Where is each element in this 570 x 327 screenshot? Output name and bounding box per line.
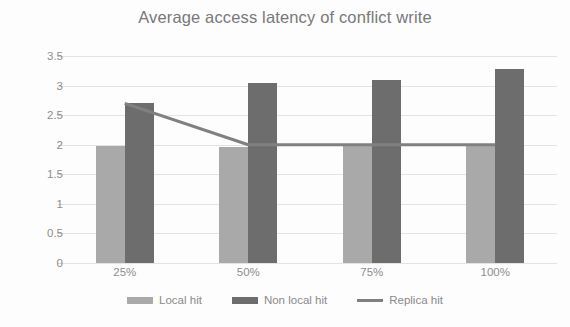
chart-title: Average access latency of conflict write <box>0 8 570 27</box>
y-axis-label: 1.5 <box>3 168 63 180</box>
line-replica-hit <box>125 103 496 144</box>
y-axis-label: 3 <box>3 80 63 92</box>
y-axis-label: 2.5 <box>3 109 63 121</box>
y-axis-label: 1 <box>3 198 63 210</box>
gridline <box>63 56 557 57</box>
legend-label: Replica hit <box>389 294 443 306</box>
gridline <box>63 86 557 87</box>
bar-non-local-hit-75pct <box>372 80 401 263</box>
y-axis-label: 2 <box>3 139 63 151</box>
chart-container: Average access latency of conflict write… <box>0 0 570 327</box>
x-axis-label: 25% <box>113 266 136 278</box>
legend-label: Non local hit <box>264 294 327 306</box>
y-axis-label: 0.5 <box>3 227 63 239</box>
bar-non-local-hit-100pct <box>495 69 524 263</box>
bar-local-hit-75pct <box>343 146 372 263</box>
legend-bar-swatch-icon <box>232 297 258 304</box>
legend-item-replica-hit[interactable]: Replica hit <box>357 294 443 306</box>
legend-line-swatch-icon <box>357 299 383 302</box>
legend-bar-swatch-icon <box>127 297 153 304</box>
bar-local-hit-100pct <box>466 146 495 263</box>
x-axis-label: 50% <box>237 266 260 278</box>
bar-local-hit-25pct <box>96 146 125 263</box>
bar-local-hit-50pct <box>219 147 248 264</box>
bar-non-local-hit-25pct <box>125 103 154 263</box>
bar-non-local-hit-50pct <box>248 83 277 263</box>
y-axis-label: 0 <box>3 257 63 269</box>
legend-label: Local hit <box>159 294 202 306</box>
x-axis-label: 100% <box>481 266 510 278</box>
gridline <box>63 263 557 264</box>
legend-item-local-hit[interactable]: Local hit <box>127 294 202 306</box>
chart-legend: Local hitNon local hitReplica hit <box>0 294 570 306</box>
x-axis-label: 75% <box>360 266 383 278</box>
legend-item-non-local-hit[interactable]: Non local hit <box>232 294 327 306</box>
y-axis-label: 3.5 <box>3 50 63 62</box>
plot-area <box>63 56 557 263</box>
